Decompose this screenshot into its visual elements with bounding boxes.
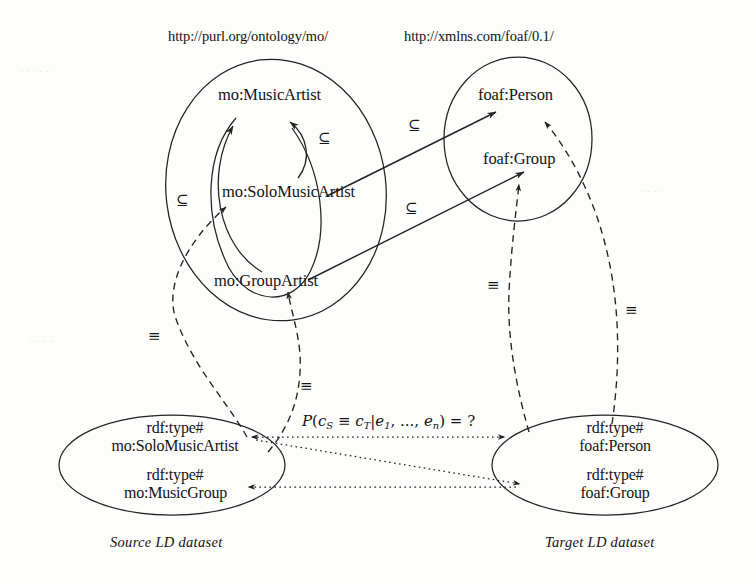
formula-e1: e	[375, 412, 384, 430]
equivalence-curve-target-person	[545, 122, 618, 424]
subsumption-arrow-solo-to-musicartist	[290, 122, 306, 178]
class-mo-musicartist: mo:MusicArtist	[218, 86, 321, 104]
equivalence-symbol-target-group: ≡	[487, 277, 500, 294]
source-entry-0-object: mo:SoloMusicArtist	[60, 437, 290, 455]
subsumption-symbol-outer-left: ⊆	[176, 192, 189, 209]
target-entry-0-predicate: rdf:type#	[545, 419, 685, 437]
equivalence-curve-source-solo	[173, 207, 247, 437]
class-mo-groupartist: mo:GroupArtist	[214, 272, 318, 290]
class-mo-solomusicartist: mo:SoloMusicArtist	[222, 183, 355, 201]
formula-ellipsis: , ...,	[391, 412, 424, 430]
equivalence-symbol-target-person: ≡	[625, 302, 638, 319]
probability-formula: P(cS ≡ cT|e1, ..., en) = ?	[302, 413, 475, 431]
formula-equiv: ≡	[338, 412, 351, 430]
equivalence-symbol-source-group: ≡	[300, 378, 313, 395]
correspondence-dotted-cross-down	[256, 440, 520, 484]
subsumption-symbol-inner-center: ⊆	[318, 130, 331, 147]
target-dataset-caption: Target LD dataset	[545, 534, 655, 550]
target-entry-0-object: foaf:Person	[545, 437, 685, 455]
formula-ct: c	[355, 412, 363, 430]
class-foaf-group: foaf:Group	[483, 150, 555, 168]
subsumption-symbol-cross-person: ⊆	[408, 117, 421, 134]
subsumption-symbol-cross-group: ⊆	[405, 200, 418, 217]
formula-en: e	[424, 412, 433, 430]
source-entry-0-predicate: rdf:type#	[100, 419, 250, 437]
target-ontology-boundary	[444, 57, 592, 221]
target-entry-1-object: foaf:Group	[545, 484, 685, 502]
namespace-url-foaf: http://xmlns.com/foaf/0.1/	[404, 28, 554, 44]
class-foaf-person: foaf:Person	[478, 86, 553, 104]
target-entry-1-predicate: rdf:type#	[545, 466, 685, 484]
equivalence-curve-source-group	[268, 292, 300, 452]
formula-p: P	[302, 412, 312, 430]
formula-eq: =	[450, 412, 463, 430]
source-entry-1-object: mo:MusicGroup	[68, 484, 283, 502]
formula-question: ?	[467, 412, 475, 430]
source-entry-1-predicate: rdf:type#	[100, 466, 250, 484]
figure-canvas: . . . . . . . . . . . . .	[0, 0, 756, 583]
equivalence-symbol-source-solo: ≡	[148, 328, 161, 345]
namespace-url-mo: http://purl.org/ontology/mo/	[168, 28, 328, 44]
source-dataset-caption: Source LD dataset	[110, 534, 223, 550]
